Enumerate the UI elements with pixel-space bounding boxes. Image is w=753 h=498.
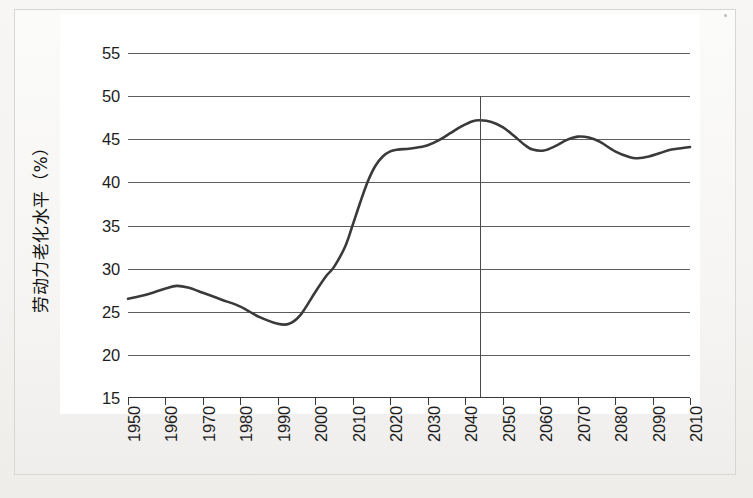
y-tick-label: 50 [102, 87, 120, 106]
x-tick-mark [315, 398, 316, 405]
x-tick-label: 1970 [199, 406, 218, 442]
projection-marker-line [480, 96, 481, 398]
x-tick-mark [540, 398, 541, 405]
x-tick-label: 2010 [349, 406, 368, 442]
x-tick-label: 2000 [312, 406, 331, 442]
y-tick-label: 20 [102, 345, 120, 364]
series-line-chart [128, 53, 690, 398]
y-axis-title: 劳动力老化水平（%） [22, 53, 56, 398]
x-tick-label-group: 1950196019701980199020002010202020302040… [128, 406, 690, 492]
x-tick-label: 2050 [499, 406, 518, 442]
x-tick-label: 1980 [237, 406, 256, 442]
figure-background: 劳动力老化水平（%） 152025303540455055 1950196019… [0, 0, 753, 498]
x-tick-label: 2090 [649, 406, 668, 442]
x-tick-mark [240, 398, 241, 405]
x-tick-label: 1990 [274, 406, 293, 442]
x-tick-mark [353, 398, 354, 405]
chart-plot-area [128, 53, 690, 398]
x-tick-mark [390, 398, 391, 405]
y-axis-title-text: 劳动力老化水平（%） [27, 138, 52, 312]
x-tick-label: 2030 [424, 406, 443, 442]
y-tick-label-group: 152025303540455055 [82, 53, 120, 398]
x-tick-mark [128, 398, 129, 405]
x-tick-mark [503, 398, 504, 405]
x-tick-label: 1960 [162, 406, 181, 442]
x-tick-mark [615, 398, 616, 405]
x-axis-line [128, 397, 690, 398]
x-tick-mark [578, 398, 579, 405]
x-tick-label: 2040 [462, 406, 481, 442]
x-tick-mark [278, 398, 279, 405]
y-tick-label: 25 [102, 302, 120, 321]
series-path-labor-aging [128, 120, 690, 325]
page-speck [724, 14, 727, 17]
x-tick-label: 2060 [537, 406, 556, 442]
x-tick-mark [653, 398, 654, 405]
x-tick-mark [165, 398, 166, 405]
y-tick-label: 55 [102, 44, 120, 63]
y-tick-label: 35 [102, 216, 120, 235]
x-tick-label: 1950 [125, 406, 144, 442]
x-tick-mark [465, 398, 466, 405]
y-tick-label: 30 [102, 259, 120, 278]
y-tick-label: 15 [102, 389, 120, 408]
y-tick-label: 40 [102, 173, 120, 192]
y-tick-label: 45 [102, 130, 120, 149]
x-tick-mark [203, 398, 204, 405]
x-tick-label: 2070 [574, 406, 593, 442]
x-tick-label: 2080 [612, 406, 631, 442]
x-tick-label: 2020 [387, 406, 406, 442]
x-tick-label: 2010 [687, 406, 706, 442]
x-tick-mark [428, 398, 429, 405]
x-tick-mark [690, 398, 691, 405]
